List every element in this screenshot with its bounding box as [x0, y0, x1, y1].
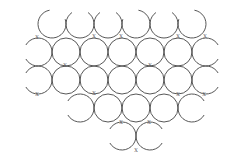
circle-arc: [178, 10, 206, 38]
x-marker-label: X: [176, 33, 180, 39]
x-marker-label: X: [92, 90, 96, 96]
x-marker-label: X: [92, 33, 96, 39]
circle-arc: [192, 38, 218, 66]
circle-arc: [150, 94, 178, 122]
circle-tiling-diagram: XXXXXXXXXXXXXX: [0, 0, 240, 161]
circle-arc: [122, 10, 150, 38]
circle-arc: [38, 10, 66, 38]
circle-arc: [110, 122, 136, 150]
x-marker-label: X: [35, 34, 39, 40]
circle-arc: [68, 94, 94, 122]
circle-arc: [108, 38, 136, 66]
x-marker-label: X: [119, 119, 123, 125]
x-marker-label: X: [119, 33, 123, 39]
circle-arc: [108, 66, 136, 94]
circle-arc: [136, 122, 162, 150]
circle-arc: [164, 66, 192, 94]
circle-arc: [136, 66, 164, 94]
x-marker-label: X: [147, 119, 151, 125]
x-marker-label: X: [176, 91, 180, 97]
circle-arc: [122, 94, 150, 122]
x-marker-label: X: [202, 91, 206, 97]
x-marker-label: X: [35, 91, 39, 97]
circle-arc: [26, 38, 52, 66]
x-marker-label: X: [63, 62, 67, 68]
circle-arcs: [26, 10, 218, 150]
circle-arc: [192, 66, 218, 94]
circle-arc: [178, 94, 204, 122]
x-marker-label: X: [148, 62, 152, 68]
circle-arc: [94, 13, 122, 38]
circle-arc: [150, 13, 178, 38]
circle-arc: [94, 94, 122, 122]
x-marker-label: X: [134, 147, 138, 153]
circle-arc: [164, 38, 192, 66]
circle-arc: [52, 66, 80, 94]
x-marker-label: X: [203, 33, 207, 39]
circle-arc: [80, 38, 108, 66]
circle-arc: [66, 13, 94, 38]
circle-arc: [26, 66, 52, 94]
